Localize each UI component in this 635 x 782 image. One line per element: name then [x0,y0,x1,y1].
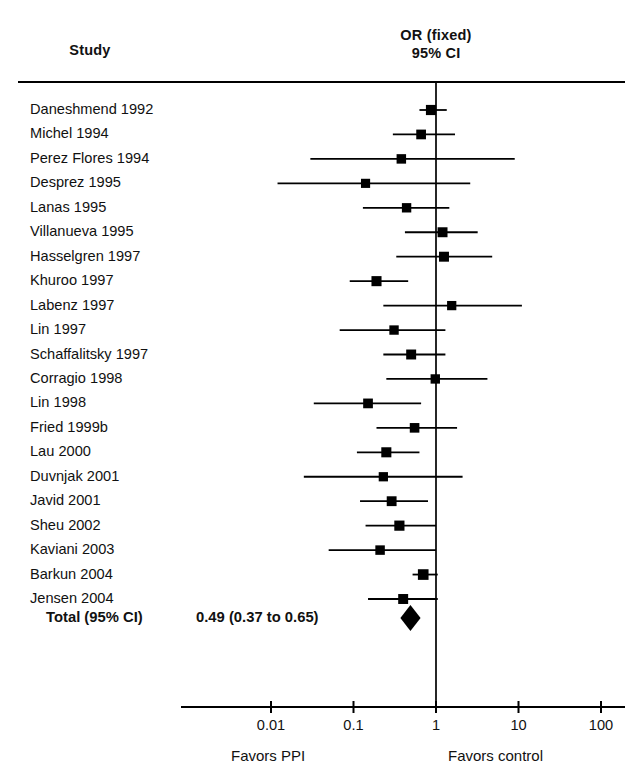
forest-row [376,423,457,433]
study-label: Sheu 2002 [30,518,101,533]
effect-marker [418,569,429,580]
study-label: Corragio 1998 [30,371,123,386]
study-label: Perez Flores 1994 [30,151,149,166]
study-label: Lau 2000 [30,444,91,459]
effect-marker [379,472,388,481]
study-label: Schaffalitsky 1997 [30,347,148,362]
forest-row [396,252,492,262]
forest-row [304,472,463,481]
summary-row-label: Total (95% CI) [46,609,143,625]
effect-marker [426,105,436,115]
forest-row [383,301,522,310]
effect-marker [416,130,426,140]
effect-marker [438,227,448,237]
effect-marker [402,203,411,212]
forest-row [405,227,478,237]
forest-row [413,569,438,580]
study-label: Javid 2001 [30,493,101,508]
forest-row [360,496,428,506]
effect-marker [389,325,398,334]
summary-diamond [400,605,420,631]
effect-marker [431,374,440,383]
effect-marker [447,301,456,310]
axis-tick-label: 100 [571,718,631,733]
study-label: Jensen 2004 [30,591,114,606]
study-label: Villanueva 1995 [30,224,134,239]
study-label: Fried 1999b [30,420,108,435]
effect-marker [397,154,406,163]
study-label: Lin 1997 [30,322,86,337]
effect-marker [375,545,384,554]
forest-row [350,276,408,286]
effect-marker [387,496,397,506]
forest-row [340,325,446,334]
axis-tick-label: 10 [489,718,549,733]
effect-marker [410,423,420,433]
axis-tick-label: 0.01 [241,718,301,733]
study-label: Hasselgren 1997 [30,249,140,264]
summary-row-value: 0.49 (0.37 to 0.65) [196,609,319,625]
forest-row [368,594,438,604]
forest-row [366,521,436,531]
summary-diamond-layer [400,605,420,631]
effect-marker [361,179,370,188]
effect-marker [439,252,449,262]
effect-marker [406,350,416,360]
forest-row [386,374,487,383]
study-label: Duvnjak 2001 [30,469,119,484]
favors-right-label: Favors control [448,748,543,763]
study-label: Barkun 2004 [30,567,113,582]
axis-tick-label: 1 [406,718,466,733]
study-label: Lin 1998 [30,395,86,410]
study-label: Lanas 1995 [30,200,106,215]
forest-row [393,130,455,140]
study-label: Kaviani 2003 [30,542,114,557]
effect-marker [371,276,381,286]
study-label: Labenz 1997 [30,298,114,313]
forest-row [310,154,514,163]
forest-plot-canvas [0,0,635,782]
forest-row [278,179,471,188]
forest-row [419,105,446,115]
forest-row [314,399,421,409]
study-rows-layer [278,105,522,604]
forest-row [329,545,436,554]
study-label: Khuroo 1997 [30,273,114,288]
effect-marker [363,399,373,409]
effect-marker [394,521,404,531]
effect-marker [398,594,408,604]
axis-tick-label: 0.1 [324,718,384,733]
favors-left-label: Favors PPI [231,748,305,763]
study-label: Daneshmend 1992 [30,102,153,117]
effect-marker [381,447,391,457]
forest-row [357,447,420,457]
study-label: Desprez 1995 [30,175,121,190]
study-label: Michel 1994 [30,126,109,141]
